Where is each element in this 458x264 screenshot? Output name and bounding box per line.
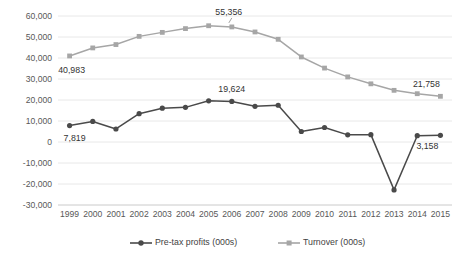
- x-axis-tick-label: 2002: [130, 209, 149, 219]
- x-axis-tick-label: 2011: [338, 209, 357, 219]
- data-point-marker: [368, 132, 373, 137]
- data-point-marker: [322, 125, 327, 130]
- legend-item-label: Turnover (000s): [303, 237, 365, 247]
- x-axis-labels: 1999200020012002200320042005200620072008…: [60, 209, 450, 219]
- data-point-label: 55,356: [215, 7, 242, 17]
- x-axis-tick-label: 2010: [315, 209, 334, 219]
- x-axis-tick-label: 2006: [222, 209, 241, 219]
- data-point-label: 21,758: [413, 79, 440, 89]
- x-axis-tick-label: 2000: [83, 209, 102, 219]
- data-point-label: 19,624: [218, 84, 245, 94]
- data-point-marker: [276, 37, 281, 42]
- x-axis-tick-label: 2001: [106, 209, 125, 219]
- data-point-marker: [114, 42, 119, 47]
- data-point-marker: [276, 103, 281, 108]
- data-point-label: 40,983: [58, 65, 85, 75]
- legend-item-label: Pre-tax profits (000s): [155, 237, 237, 247]
- data-point-marker: [183, 26, 188, 31]
- x-axis-tick-label: 2013: [384, 209, 403, 219]
- data-point-marker: [438, 94, 443, 99]
- y-axis-tick-label: 50,000: [26, 32, 53, 42]
- chart-container: 60,00050,00040,00030,00020,00010,0000-10…: [0, 0, 458, 264]
- data-point-marker: [252, 104, 257, 109]
- data-point-marker: [299, 129, 304, 134]
- data-point-marker: [67, 54, 72, 59]
- y-axis-tick-label: 10,000: [26, 116, 53, 126]
- data-point-marker: [322, 66, 327, 71]
- x-axis-tick-label: 1999: [60, 209, 79, 219]
- x-axis-tick-label: 2003: [153, 209, 172, 219]
- data-point-marker: [90, 119, 95, 124]
- data-point-marker: [368, 81, 373, 86]
- label-leader-line: [229, 18, 232, 23]
- line-chart: 60,00050,00040,00030,00020,00010,0000-10…: [0, 0, 458, 264]
- data-point-marker: [392, 88, 397, 93]
- data-point-label: 3,158: [416, 141, 438, 151]
- data-point-marker: [415, 91, 420, 96]
- x-axis-tick-label: 2005: [199, 209, 218, 219]
- data-point-marker: [229, 25, 234, 30]
- y-axis-tick-label: 40,000: [26, 53, 53, 63]
- y-axis-tick-label: 30,000: [26, 74, 53, 84]
- x-axis-tick-label: 2012: [361, 209, 380, 219]
- plot-markers: [67, 23, 443, 192]
- data-point-marker: [299, 55, 304, 60]
- y-axis-tick-label: -30,000: [23, 200, 52, 210]
- data-point-marker: [160, 30, 165, 35]
- data-point-marker: [137, 111, 142, 116]
- data-point-marker: [183, 105, 188, 110]
- data-point-marker: [160, 106, 165, 111]
- legend-marker-swatch: [138, 240, 143, 245]
- legend-marker-swatch: [287, 241, 292, 246]
- series-line: [70, 101, 441, 190]
- y-axis-labels: 60,00050,00040,00030,00020,00010,0000-10…: [23, 11, 52, 210]
- data-point-marker: [90, 46, 95, 51]
- x-axis-tick-label: 2014: [408, 209, 427, 219]
- data-point-marker: [206, 23, 211, 28]
- y-axis-tick-label: -20,000: [23, 179, 52, 189]
- x-axis-tick-label: 2007: [245, 209, 264, 219]
- data-point-marker: [137, 34, 142, 39]
- data-point-marker: [113, 126, 118, 131]
- data-point-marker: [67, 123, 72, 128]
- y-axis-tick-label: 20,000: [26, 95, 53, 105]
- data-point-marker: [229, 99, 234, 104]
- data-point-marker: [438, 133, 443, 138]
- series-line: [70, 26, 441, 97]
- x-axis-tick-label: 2009: [292, 209, 311, 219]
- data-point-label: 7,819: [64, 133, 86, 143]
- legend: Pre-tax profits (000s)Turnover (000s): [130, 237, 365, 247]
- x-axis-tick-label: 2008: [269, 209, 288, 219]
- x-axis-tick-label: 2015: [431, 209, 450, 219]
- data-point-marker: [345, 75, 350, 80]
- y-axis-tick-label: -10,000: [23, 158, 52, 168]
- x-axis-tick-label: 2004: [176, 209, 195, 219]
- y-axis-tick-label: 60,000: [26, 11, 53, 21]
- data-point-marker: [206, 98, 211, 103]
- data-point-marker: [253, 30, 258, 35]
- y-axis-tick-label: 0: [47, 137, 52, 147]
- data-point-marker: [391, 187, 396, 192]
- data-point-marker: [415, 133, 420, 138]
- data-point-marker: [345, 132, 350, 137]
